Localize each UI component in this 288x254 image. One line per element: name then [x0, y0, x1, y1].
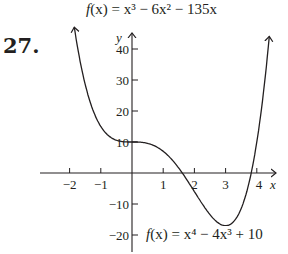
function-graph: −2 −1 1 2 3 4 x 40 30 20 10 −10 −20 y	[0, 0, 288, 254]
function-curve	[74, 27, 269, 226]
y-axis-label: y	[114, 30, 122, 45]
caption-bottom-equation: f(x) = x⁴ − 4x³ + 10	[145, 226, 264, 243]
y-tick-label: 20	[116, 104, 129, 119]
x-tick-label: 4	[256, 177, 263, 192]
y-tick-label: −10	[109, 197, 129, 212]
y-tick-label: 30	[116, 73, 129, 88]
x-tick-label: 3	[222, 177, 229, 192]
y-tick-label: −20	[109, 228, 129, 243]
caption-bottom-rest: = x⁴ − 4x³ + 10	[168, 226, 263, 242]
x-tick-label: 1	[160, 177, 167, 192]
x-ticks	[70, 168, 257, 173]
x-axis-label: x	[269, 177, 276, 192]
x-tick-label: 2	[191, 177, 198, 192]
x-tick-label: −1	[94, 177, 108, 192]
x-tick-label: −2	[63, 177, 77, 192]
caption-bottom-arg: (x)	[150, 226, 168, 242]
